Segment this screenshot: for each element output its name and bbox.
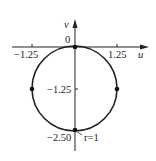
annotation-leader-line <box>76 131 82 135</box>
point-top <box>73 45 78 50</box>
v-axis-arrow-icon <box>73 19 78 28</box>
u-axis-label: u <box>138 49 143 60</box>
point-right <box>115 87 120 92</box>
tick-label-u-right: 1.25 <box>108 49 126 60</box>
uv-plane-diagram: v 0 u −1.25 1.25 −1.25 −2.50 r=1 <box>0 0 156 161</box>
origin-label: 0 <box>65 34 70 45</box>
tick-label-v-mid: −1.25 <box>47 84 71 95</box>
tick-label-v-bottom: −2.50 <box>47 132 71 143</box>
radius-annotation: r=1 <box>84 132 99 143</box>
point-left <box>30 87 35 92</box>
tick-label-u-left: −1.25 <box>14 49 38 60</box>
v-axis-label: v <box>64 19 69 30</box>
